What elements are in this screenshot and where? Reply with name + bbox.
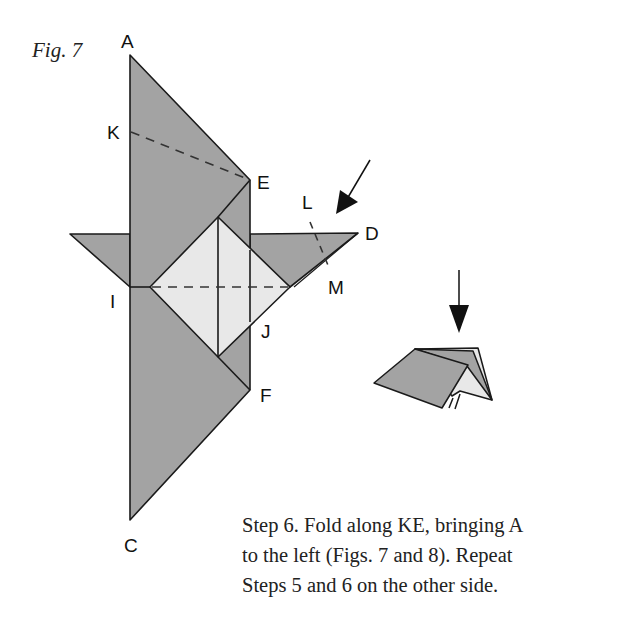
step-caption: Step 6. Fold along KE, bringing A to the… bbox=[242, 510, 632, 600]
caption-line: to the left (Figs. 7 and 8). Repeat bbox=[242, 540, 632, 570]
point-label-J: J bbox=[261, 321, 271, 342]
arrow-icon bbox=[336, 160, 370, 214]
point-label-E: E bbox=[257, 172, 270, 193]
point-label-K: K bbox=[107, 122, 120, 143]
point-label-I: I bbox=[110, 291, 115, 312]
point-label-M: M bbox=[328, 277, 344, 298]
caption-line: Steps 5 and 6 on the other side. bbox=[242, 570, 632, 600]
caption-line: Step 6. Fold along KE, bringing A bbox=[242, 510, 632, 540]
point-label-F: F bbox=[260, 385, 272, 406]
point-label-L: L bbox=[302, 192, 313, 213]
point-label-D: D bbox=[365, 223, 379, 244]
point-label-C: C bbox=[124, 535, 138, 556]
point-label-A: A bbox=[121, 31, 134, 52]
preview-figure bbox=[374, 270, 492, 409]
